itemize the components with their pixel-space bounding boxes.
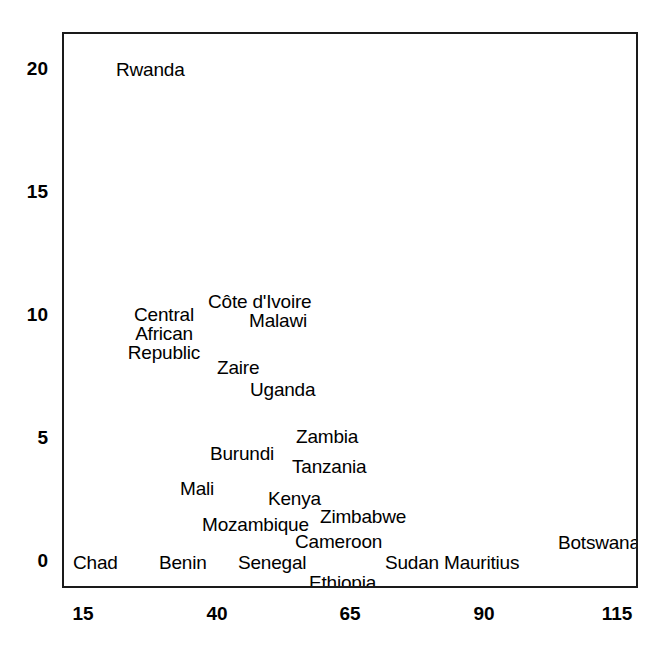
x-tick-label-90: 90 <box>454 604 514 623</box>
point-label-zambia: Zambia <box>296 427 358 446</box>
point-label-line: Benin <box>159 553 207 572</box>
point-label-zimbabwe: Zimbabwe <box>320 507 406 526</box>
point-label-line: Burundi <box>210 444 274 463</box>
point-label-line: Uganda <box>250 380 315 399</box>
point-label-line: Botswana <box>558 533 638 552</box>
y-tick-label-0: 0 <box>8 551 48 570</box>
point-label-sudan: Sudan <box>385 553 439 572</box>
point-label-line: Republic <box>118 343 210 362</box>
point-label-line: Zambia <box>296 427 358 446</box>
point-label-chad: Chad <box>73 553 118 572</box>
y-tick-label-10: 10 <box>8 305 48 324</box>
x-tick-label-40: 40 <box>187 604 247 623</box>
point-label-line: Rwanda <box>116 60 185 79</box>
point-label-line: Tanzania <box>292 457 366 476</box>
point-label-line: Kenya <box>268 489 321 508</box>
point-label-line: Central <box>118 305 210 324</box>
scatter-plot-figure: RwandaCôte d'IvoireMalawiCentralAfricanR… <box>0 0 661 654</box>
point-label-line: Malawi <box>249 311 307 330</box>
point-label-line: Cameroon <box>295 532 382 551</box>
point-label-line: African <box>118 324 210 343</box>
point-label-line: Ethiopia <box>309 573 376 588</box>
point-label-line: Côte d'Ivoire <box>208 292 311 311</box>
y-tick-label-15: 15 <box>8 182 48 201</box>
point-label-cameroon: Cameroon <box>295 532 382 551</box>
point-label-benin: Benin <box>159 553 207 572</box>
point-label-line: Mozambique <box>202 515 309 534</box>
point-label-mali: Mali <box>180 479 214 498</box>
point-label-rwanda: Rwanda <box>116 60 185 79</box>
y-tick-label-20: 20 <box>8 59 48 78</box>
point-label-line: Zaire <box>217 358 259 377</box>
point-label-burundi: Burundi <box>210 444 274 463</box>
point-label-line: Senegal <box>238 553 306 572</box>
point-label-central-african-republic: CentralAfricanRepublic <box>118 305 210 362</box>
point-label-malawi: Malawi <box>249 311 307 330</box>
point-label-line: Mauritius <box>444 553 519 572</box>
point-label-ethiopia: Ethiopia <box>309 573 376 588</box>
point-label-c-te-d-ivoire: Côte d'Ivoire <box>208 292 311 311</box>
point-label-mauritius: Mauritius <box>444 553 519 572</box>
point-label-botswana: Botswana <box>558 533 638 552</box>
x-tick-label-15: 15 <box>53 604 113 623</box>
plot-area-frame: RwandaCôte d'IvoireMalawiCentralAfricanR… <box>62 32 638 588</box>
point-label-line: Sudan <box>385 553 439 572</box>
x-tick-label-115: 115 <box>587 604 647 623</box>
point-label-line: Zimbabwe <box>320 507 406 526</box>
point-label-senegal: Senegal <box>238 553 306 572</box>
x-tick-label-65: 65 <box>320 604 380 623</box>
point-label-kenya: Kenya <box>268 489 321 508</box>
point-label-tanzania: Tanzania <box>292 457 366 476</box>
y-tick-label-5: 5 <box>8 428 48 447</box>
point-label-zaire: Zaire <box>217 358 259 377</box>
point-label-mozambique: Mozambique <box>202 515 309 534</box>
point-label-line: Chad <box>73 553 118 572</box>
point-label-line: Mali <box>180 479 214 498</box>
point-label-uganda: Uganda <box>250 380 315 399</box>
